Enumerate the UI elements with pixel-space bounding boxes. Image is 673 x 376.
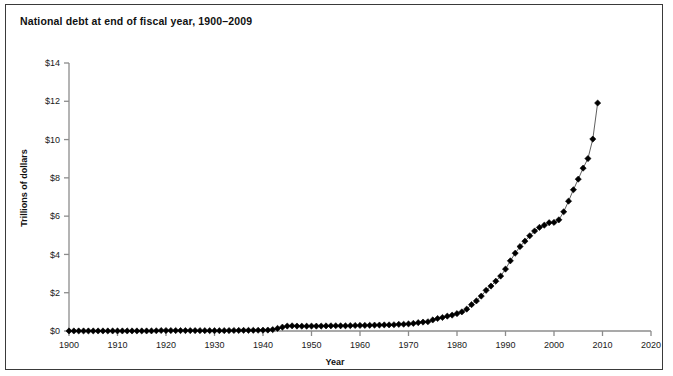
x-axis-tick-label: 1950 — [301, 340, 321, 350]
data-point-marker — [585, 155, 591, 161]
x-axis-tick-label: 1960 — [350, 340, 370, 350]
data-point-marker — [507, 258, 513, 264]
data-point-marker — [580, 165, 586, 171]
y-axis-tick-label: $6 — [50, 211, 60, 221]
x-axis-title: Year — [6, 357, 664, 367]
x-axis-tick-label: 1930 — [204, 340, 224, 350]
x-axis-tick-label: 1940 — [253, 340, 273, 350]
data-point-marker — [565, 198, 571, 204]
x-axis-tick-label: 2020 — [641, 340, 661, 350]
data-point-marker — [570, 187, 576, 193]
x-axis-tick-label: 2000 — [544, 340, 564, 350]
chart-figure: National debt at end of fiscal year, 190… — [5, 4, 663, 370]
data-point-marker — [512, 250, 518, 256]
y-axis-tick-label: $10 — [45, 135, 60, 145]
y-axis-tick-label: $2 — [50, 288, 60, 298]
x-axis-tick-label: 1900 — [59, 340, 79, 350]
x-axis-tick-label: 1990 — [495, 340, 515, 350]
y-axis: $0$2$4$6$8$10$12$14 — [45, 58, 69, 336]
y-axis-tick-label: $0 — [50, 326, 60, 336]
y-axis-tick-label: $14 — [45, 58, 60, 68]
data-point-marker — [590, 136, 596, 142]
x-axis-tick-label: 1980 — [447, 340, 467, 350]
data-point-marker — [595, 100, 601, 106]
data-series — [66, 100, 601, 334]
data-point-marker — [502, 266, 508, 272]
y-axis-tick-label: $4 — [50, 250, 60, 260]
series-line — [69, 103, 598, 331]
data-point-marker — [279, 324, 285, 330]
x-axis-tick-label: 1910 — [107, 340, 127, 350]
plot-area: $0$2$4$6$8$10$12$14 19001910192019301940… — [6, 5, 664, 371]
x-axis-tick-label: 1970 — [398, 340, 418, 350]
x-axis-tick-label: 1920 — [156, 340, 176, 350]
y-axis-tick-label: $8 — [50, 173, 60, 183]
data-point-marker — [561, 209, 567, 215]
y-axis-title: Trillions of dollars — [19, 143, 29, 233]
x-axis: 1900191019201930194019501960197019801990… — [59, 331, 661, 350]
y-axis-tick-label: $12 — [45, 96, 60, 106]
data-point-marker — [270, 327, 276, 333]
chart-canvas: $0$2$4$6$8$10$12$14 19001910192019301940… — [6, 5, 664, 371]
x-axis-tick-label: 2010 — [592, 340, 612, 350]
data-point-marker — [575, 176, 581, 182]
